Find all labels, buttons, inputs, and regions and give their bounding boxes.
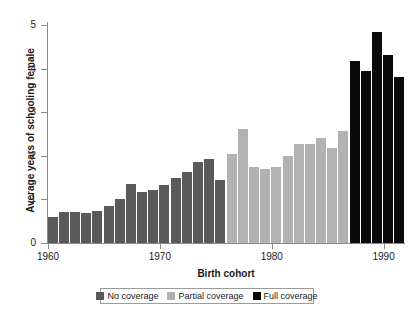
legend-swatch-icon <box>167 292 175 300</box>
bar <box>115 199 125 243</box>
bar <box>104 206 114 243</box>
y-tick-label: 2 <box>0 151 36 161</box>
y-tick-mark <box>41 243 47 244</box>
bar <box>383 55 393 243</box>
legend-label: No coverage <box>107 292 158 301</box>
x-tick-label: 1990 <box>359 252 409 262</box>
bar <box>260 169 270 243</box>
legend-swatch-icon <box>253 292 261 300</box>
legend-item: Partial coverage <box>167 292 243 301</box>
x-tick-mark <box>272 244 273 249</box>
legend-label: Partial coverage <box>178 292 243 301</box>
bar <box>182 172 192 243</box>
bar <box>148 190 158 243</box>
bar <box>316 138 326 244</box>
bar-series <box>47 22 405 243</box>
y-tick-label: 1 <box>0 194 36 204</box>
x-axis-label: Birth cohort <box>47 268 405 279</box>
x-tick-mark <box>160 244 161 249</box>
x-tick-mark <box>384 244 385 249</box>
bar <box>59 212 69 243</box>
bar <box>350 61 360 243</box>
bar <box>372 32 382 243</box>
chart-legend: No coveragePartial coverageFull coverage <box>100 288 314 304</box>
bar <box>394 77 404 243</box>
x-tick-label: 1970 <box>135 252 185 262</box>
bar <box>305 144 315 243</box>
bar <box>81 213 91 243</box>
bar <box>48 217 58 243</box>
y-tick-label: 3 <box>0 107 36 117</box>
chart-figure: Average years of schooling female 012345… <box>0 0 412 314</box>
bar <box>193 162 203 243</box>
bar <box>283 156 293 243</box>
bar <box>137 192 147 243</box>
bar <box>92 211 102 243</box>
legend-item: No coverage <box>96 292 158 301</box>
y-tick-label: 4 <box>0 64 36 74</box>
bar <box>271 167 281 243</box>
bar <box>227 154 237 243</box>
y-tick-label: 0 <box>0 238 36 248</box>
bar <box>159 185 169 243</box>
bar <box>238 129 248 243</box>
legend-item: Full coverage <box>253 292 318 301</box>
bar <box>70 212 80 243</box>
x-tick-label: 1960 <box>23 252 73 262</box>
y-tick-label: 5 <box>0 20 36 30</box>
legend-label: Full coverage <box>264 292 318 301</box>
x-tick-mark <box>48 244 49 249</box>
bar <box>171 178 181 243</box>
bar <box>215 180 225 243</box>
legend-swatch-icon <box>96 292 104 300</box>
bar <box>204 159 214 243</box>
bar <box>361 71 371 243</box>
bar <box>327 148 337 243</box>
bar <box>126 184 136 243</box>
x-axis-line <box>47 243 405 244</box>
bar <box>294 144 304 243</box>
bar <box>338 131 348 243</box>
bar <box>249 167 259 243</box>
x-tick-label: 1980 <box>247 252 297 262</box>
